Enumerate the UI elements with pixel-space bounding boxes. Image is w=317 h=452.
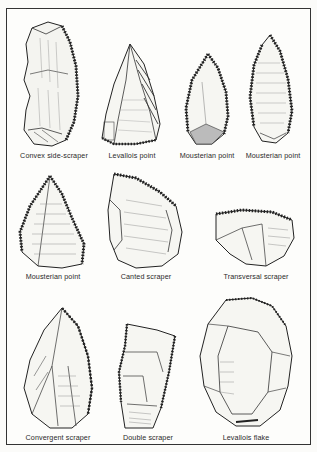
double-scraper-label: Double scraper <box>114 433 182 442</box>
mousterian-point-3-drawing <box>18 174 88 270</box>
mousterian-point-3-label: Mousterian point <box>17 272 89 281</box>
convex-side-scraper-drawing <box>18 18 88 148</box>
levallois-point-drawing <box>96 40 168 148</box>
mousterian-point-1-label: Mousterian point <box>172 151 242 160</box>
levallois-point-label: Levallois point <box>96 151 168 160</box>
canted-scraper-drawing <box>106 170 186 270</box>
levallois-flake-drawing <box>198 296 294 430</box>
transversal-scraper-label: Transversal scraper <box>216 272 296 281</box>
levallois-flake-label: Levallois flake <box>210 433 282 442</box>
mousterian-point-1-drawing <box>182 52 232 148</box>
mousterian-point-2-label: Mousterian point <box>238 151 308 160</box>
convex-side-scraper-label: Convex side-scraper <box>18 151 90 160</box>
transversal-scraper-drawing <box>212 208 298 268</box>
canted-scraper-label: Canted scraper <box>108 272 184 281</box>
mousterian-point-2-drawing <box>246 33 296 148</box>
convergent-scraper-label: Convergent scraper <box>20 433 96 442</box>
double-scraper-drawing <box>117 322 179 430</box>
convergent-scraper-drawing <box>22 306 94 432</box>
